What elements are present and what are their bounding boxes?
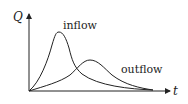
outflow-label: outflow [121,63,163,76]
inflow-label: inflow [63,19,98,32]
hydrograph-diagram: Q t inflow outflow [0,0,188,104]
x-axis-label: t [173,84,178,98]
y-axis-label: Q [13,10,23,24]
inflow-curve [29,32,153,91]
